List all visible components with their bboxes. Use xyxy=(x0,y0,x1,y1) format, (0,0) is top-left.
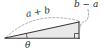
angle-theta-label: θ xyxy=(25,41,30,50)
leader-line xyxy=(80,10,89,33)
geometry-figure: a + b b − a θ xyxy=(0,0,105,54)
vertical-leg-label: b − a xyxy=(74,0,98,9)
